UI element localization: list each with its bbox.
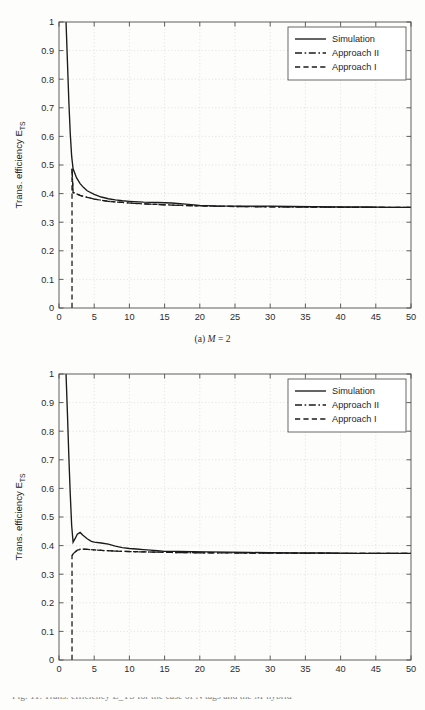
clipped-figure-caption: Fig. 11. Trans. efficiency E_TS for the …: [0, 697, 425, 710]
clipped-caption-text: Fig. 11. Trans. efficiency E_TS for the …: [12, 697, 416, 701]
y-tick-label: 0.7: [41, 455, 54, 465]
x-tick-label: 0: [56, 312, 61, 320]
y-tick-label: 0.2: [41, 598, 54, 608]
y-tick-label: 0.5: [41, 160, 54, 170]
x-tick-label: 35: [300, 664, 310, 672]
legend-label: Approach II: [332, 400, 379, 410]
legend-label: Simulation: [332, 34, 375, 44]
x-tick-label: 40: [335, 664, 345, 672]
legend: SimulationApproach IIApproach I: [288, 27, 406, 80]
y-tick-label: 0.7: [41, 103, 54, 113]
y-tick-label: 0.9: [41, 398, 54, 408]
series-approach-i: [72, 169, 411, 308]
x-tick-label: 15: [159, 664, 169, 672]
chart-panel-a: 0510152025303540455000.10.20.30.40.50.60…: [0, 0, 425, 352]
legend-label: Approach I: [332, 62, 376, 72]
y-tick-label: 0.1: [41, 627, 54, 637]
legend: SimulationApproach IIApproach I: [288, 379, 406, 432]
y-tick-label: 1: [49, 17, 54, 27]
x-tick-label: 25: [230, 664, 240, 672]
y-axis-title: Trans. efficiency ETS: [13, 473, 26, 561]
subcaption-a-symbol: M: [208, 333, 216, 344]
y-tick-label: 0.1: [41, 275, 54, 285]
chart-panel-b: 0510152025303540455000.10.20.30.40.50.60…: [0, 352, 425, 692]
y-tick-label: 0.4: [41, 541, 54, 551]
y-tick-label: 0: [49, 303, 54, 313]
legend-label: Simulation: [332, 386, 375, 396]
x-tick-label: 10: [124, 312, 134, 320]
y-axis-title: Trans. efficiency ETS: [13, 121, 26, 209]
x-tick-label: 30: [265, 664, 275, 672]
chart-a-svg: 0510152025303540455000.10.20.30.40.50.60…: [0, 0, 425, 320]
x-tick-label: 50: [406, 312, 416, 320]
y-tick-label: 0.5: [41, 512, 54, 522]
y-tick-label: 0.6: [41, 484, 54, 494]
x-tick-label: 45: [371, 312, 381, 320]
x-tick-label: 40: [335, 312, 345, 320]
chart-b-svg: 0510152025303540455000.10.20.30.40.50.60…: [0, 352, 425, 672]
figure-page: 0510152025303540455000.10.20.30.40.50.60…: [0, 0, 425, 710]
y-tick-label: 0.9: [41, 46, 54, 56]
x-tick-label: 50: [406, 664, 416, 672]
x-tick-label: 45: [371, 664, 381, 672]
plot-area-b: 0510152025303540455000.10.20.30.40.50.60…: [0, 352, 425, 672]
legend-label: Approach I: [332, 414, 376, 424]
x-tick-label: 20: [195, 664, 205, 672]
subcaption-a-prefix: (a): [194, 333, 207, 344]
x-tick-label: 30: [265, 312, 275, 320]
y-tick-label: 0.3: [41, 218, 54, 228]
x-tick-label: 15: [159, 312, 169, 320]
x-tick-label: 5: [92, 312, 97, 320]
plot-area-a: 0510152025303540455000.10.20.30.40.50.60…: [0, 0, 425, 320]
legend-label: Approach II: [332, 48, 379, 58]
x-tick-label: 5: [92, 664, 97, 672]
subcaption-a: (a) M = 2: [0, 333, 425, 344]
y-tick-label: 0.8: [41, 75, 54, 85]
series-approach-i: [72, 549, 411, 660]
x-tick-label: 0: [56, 664, 61, 672]
series-approach-ii: [72, 169, 411, 208]
x-tick-label: 20: [195, 312, 205, 320]
y-tick-label: 0.3: [41, 570, 54, 580]
y-tick-label: 1: [49, 369, 54, 379]
y-tick-label: 0.6: [41, 132, 54, 142]
subcaption-a-value: = 2: [216, 333, 231, 344]
y-tick-label: 0.4: [41, 189, 54, 199]
x-tick-label: 10: [124, 664, 134, 672]
x-tick-label: 35: [300, 312, 310, 320]
x-tick-label: 25: [230, 312, 240, 320]
y-tick-label: 0.2: [41, 246, 54, 256]
y-tick-label: 0: [49, 655, 54, 665]
y-tick-label: 0.8: [41, 427, 54, 437]
